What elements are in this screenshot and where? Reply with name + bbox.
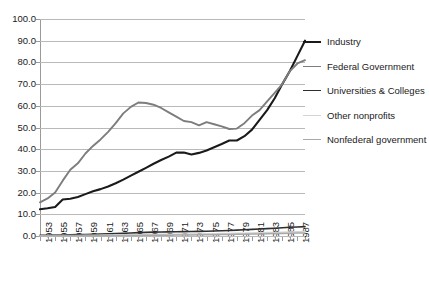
x-axis-tick <box>131 237 132 241</box>
legend-item-label: Nonfederal government <box>327 134 426 146</box>
legend-item[interactable]: Federal Government <box>303 61 429 73</box>
legend-item-label: Federal Government <box>327 61 414 73</box>
legend-swatch-icon <box>303 90 321 91</box>
legend-swatch-icon <box>303 41 321 43</box>
x-axis-tick <box>116 237 117 241</box>
x-axis-tick <box>222 237 223 241</box>
x-axis-tick <box>290 237 291 241</box>
x-axis-tick <box>244 237 245 241</box>
series-line <box>40 60 305 202</box>
x-axis-tick <box>101 237 102 241</box>
y-axis-tick-label: 20.0 <box>0 188 36 198</box>
legend-item[interactable]: Industry <box>303 36 429 48</box>
x-axis-tick <box>305 237 306 241</box>
x-axis-tick <box>48 237 49 241</box>
x-axis-tick <box>184 237 185 241</box>
x-axis-tick <box>191 237 192 241</box>
x-axis-tick <box>138 237 139 241</box>
y-axis-tick-label: 80.0 <box>0 57 36 67</box>
y-axis-tick-label: 40.0 <box>0 144 36 154</box>
legend-swatch-icon <box>303 139 321 140</box>
x-axis-tick <box>275 237 276 241</box>
legend-item[interactable]: Other nonprofits <box>303 110 429 122</box>
x-axis-tick <box>63 237 64 241</box>
x-axis-tick <box>161 237 162 241</box>
chart-legend: IndustryFederal GovernmentUniversities &… <box>303 36 429 159</box>
y-axis-tick-label: 50.0 <box>0 123 36 133</box>
x-axis-tick <box>176 237 177 241</box>
y-axis-tick-label: 0.0 <box>0 231 36 241</box>
x-axis-tick <box>123 237 124 241</box>
x-axis-tick <box>207 237 208 241</box>
y-axis-tick-label: 30.0 <box>0 166 36 176</box>
x-axis-tick <box>70 237 71 241</box>
legend-item[interactable]: Nonfederal government <box>303 134 429 146</box>
line-chart: 0.010.020.030.040.050.060.070.080.090.01… <box>0 0 429 287</box>
x-axis-tick <box>237 237 238 241</box>
y-axis-tick-label: 90.0 <box>0 36 36 46</box>
legend-item-label: Industry <box>327 36 361 48</box>
series-line <box>40 41 305 210</box>
x-axis-tick <box>229 237 230 241</box>
x-axis-tick <box>282 237 283 241</box>
y-axis-tick-label: 70.0 <box>0 79 36 89</box>
y-axis-tick-label: 10.0 <box>0 209 36 219</box>
series-lines <box>40 19 305 236</box>
x-axis-tick <box>154 237 155 241</box>
legend-item[interactable]: Universities & Colleges <box>303 85 429 97</box>
legend-item-label: Universities & Colleges <box>327 85 425 97</box>
legend-item-label: Other nonprofits <box>327 110 395 122</box>
x-axis-tick <box>260 237 261 241</box>
y-axis-tick-label: 60.0 <box>0 101 36 111</box>
x-axis-tick <box>214 237 215 241</box>
x-axis-tick <box>78 237 79 241</box>
x-axis-tick <box>40 237 41 241</box>
x-axis-tick <box>252 237 253 241</box>
plot-area <box>40 19 305 236</box>
x-axis-tick <box>267 237 268 241</box>
x-axis-tick <box>93 237 94 241</box>
x-axis-tick <box>146 237 147 241</box>
y-axis-tick-label: 100.0 <box>0 14 36 24</box>
legend-swatch-icon <box>303 66 321 67</box>
x-axis-tick <box>169 237 170 241</box>
legend-swatch-icon <box>303 115 321 116</box>
x-axis-tick <box>297 237 298 241</box>
x-axis-tick <box>199 237 200 241</box>
x-axis-tick <box>85 237 86 241</box>
x-axis-tick <box>55 237 56 241</box>
x-axis-tick <box>108 237 109 241</box>
